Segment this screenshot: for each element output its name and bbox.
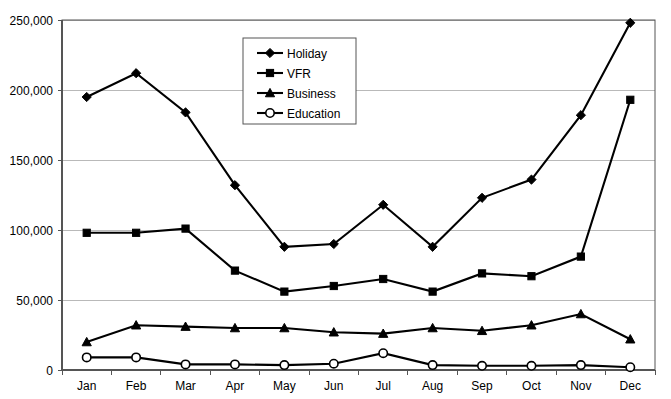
series-education-point-jul-marker-circle	[379, 349, 387, 357]
series-vfr-point-jun-marker-square	[330, 282, 337, 289]
series-vfr-point-nov-marker-square	[577, 253, 584, 260]
legend-label-business: Business	[287, 87, 336, 101]
ytick-label-50000: 50,000	[16, 294, 53, 308]
xtick-label-dec: Dec	[620, 379, 641, 393]
legend-label-education: Education	[287, 107, 340, 121]
series-education-point-mar-marker-circle	[181, 360, 189, 368]
series-vfr-point-sep-marker-square	[478, 270, 485, 277]
legend-label-holiday: Holiday	[287, 47, 327, 61]
series-education-point-sep-marker-circle	[478, 362, 486, 370]
line-chart: 050,000100,000150,000200,000250,000JanFe…	[0, 0, 671, 399]
series-vfr-point-jan-marker-square	[83, 229, 90, 236]
xtick-label-apr: Apr	[226, 379, 245, 393]
series-education-point-feb-marker-circle	[132, 353, 140, 361]
series-vfr-point-aug-marker-square	[429, 288, 436, 295]
legend-label-vfr: VFR	[287, 67, 311, 81]
series-vfr-point-apr-marker-square	[231, 267, 238, 274]
xtick-label-oct: Oct	[522, 379, 541, 393]
series-vfr-point-oct-marker-square	[528, 273, 535, 280]
series-education-point-nov-marker-circle	[577, 361, 585, 369]
ytick-label-0: 0	[46, 364, 53, 378]
xtick-label-jan: Jan	[77, 379, 96, 393]
series-education-point-apr-marker-circle	[231, 360, 239, 368]
series-vfr-point-feb-marker-square	[133, 229, 140, 236]
ytick-label-100000: 100,000	[10, 224, 54, 238]
legend-education-marker-circle	[266, 109, 274, 117]
series-education-point-jan-marker-circle	[83, 353, 91, 361]
series-education-point-oct-marker-circle	[527, 362, 535, 370]
xtick-label-jun: Jun	[324, 379, 343, 393]
legend-vfr-marker-square	[266, 69, 273, 76]
xtick-label-jul: Jul	[376, 379, 391, 393]
ytick-label-150000: 150,000	[10, 154, 54, 168]
series-vfr-point-jul-marker-square	[380, 275, 387, 282]
xtick-label-nov: Nov	[570, 379, 591, 393]
xtick-label-may: May	[273, 379, 296, 393]
series-vfr-point-may-marker-square	[281, 288, 288, 295]
xtick-label-mar: Mar	[175, 379, 196, 393]
series-education-point-may-marker-circle	[280, 361, 288, 369]
series-education-point-dec-marker-circle	[626, 363, 634, 371]
chart-container: 050,000100,000150,000200,000250,000JanFe…	[0, 0, 671, 399]
xtick-label-feb: Feb	[126, 379, 147, 393]
xtick-label-aug: Aug	[422, 379, 443, 393]
series-vfr-point-dec-marker-square	[627, 96, 634, 103]
xtick-label-sep: Sep	[471, 379, 493, 393]
series-vfr-point-mar-marker-square	[182, 225, 189, 232]
series-education-point-jun-marker-circle	[330, 360, 338, 368]
ytick-label-250000: 250,000	[10, 14, 54, 28]
ytick-label-200000: 200,000	[10, 84, 54, 98]
series-education-point-aug-marker-circle	[428, 361, 436, 369]
